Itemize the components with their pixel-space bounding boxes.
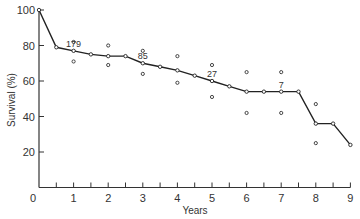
lower-bound-marker (314, 142, 317, 145)
data-point (331, 122, 334, 125)
x-tick-label: 9 (347, 192, 353, 204)
y-tick-label: 100 (17, 4, 35, 16)
lower-bound-marker (210, 95, 213, 98)
upper-bound-marker (245, 71, 248, 74)
x-tick-label: 5 (209, 192, 215, 204)
data-point (228, 85, 231, 88)
x-tick-label: 3 (140, 192, 146, 204)
y-tick-label: 20 (23, 146, 35, 158)
upper-bound-marker (176, 55, 179, 58)
x-axis-title: Years (182, 205, 207, 216)
x-tick-label: 0 (30, 192, 36, 204)
upper-bound-marker (107, 44, 110, 47)
x-tick-label: 1 (71, 192, 77, 204)
n-at-risk-label: 179 (66, 39, 81, 49)
x-tick-label: 2 (105, 192, 111, 204)
upper-bound-marker (314, 102, 317, 105)
data-point (158, 65, 161, 68)
x-tick-label: 7 (278, 192, 284, 204)
n-at-risk-label: 27 (207, 69, 217, 79)
axes: 204060801000123456789 (17, 4, 354, 204)
data-point (314, 122, 317, 125)
n-at-risk-label: 85 (138, 51, 148, 61)
data-point (107, 54, 110, 57)
data-point (245, 90, 248, 93)
n-at-risk-label: 7 (279, 80, 284, 90)
data-point (176, 69, 179, 72)
data-point (141, 62, 144, 65)
data-point (55, 46, 58, 49)
lower-bound-marker (107, 63, 110, 66)
survival-series (37, 8, 352, 146)
upper-bound-marker (210, 63, 213, 66)
x-tick-label: 4 (174, 192, 180, 204)
data-point (280, 90, 283, 93)
data-point (37, 8, 40, 11)
data-point (193, 74, 196, 77)
upper-bound-marker (280, 71, 283, 74)
data-point (210, 79, 213, 82)
data-point (89, 53, 92, 56)
y-tick-label: 40 (23, 111, 35, 123)
data-point (349, 143, 352, 146)
lower-bound-marker (176, 81, 179, 84)
data-point (72, 49, 75, 52)
lower-bound-marker (72, 60, 75, 63)
y-axis-title: Survival (%) (6, 73, 17, 127)
y-tick-label: 80 (23, 40, 35, 52)
number-at-risk-labels: 17985277 (66, 39, 284, 90)
lower-bound-marker (245, 111, 248, 114)
survival-chart: 204060801000123456789 17985277 Years Sur… (0, 0, 360, 219)
data-point (262, 90, 265, 93)
y-tick-label: 60 (23, 75, 35, 87)
data-point (124, 54, 127, 57)
lower-bound-marker (141, 72, 144, 75)
lower-bound-marker (280, 111, 283, 114)
x-tick-label: 6 (244, 192, 250, 204)
x-tick-label: 8 (313, 192, 319, 204)
data-point (297, 90, 300, 93)
